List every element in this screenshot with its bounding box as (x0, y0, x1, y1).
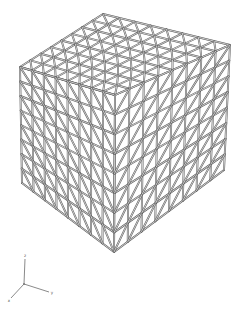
strut-diagonal (131, 59, 132, 69)
strut-diagonal (105, 72, 106, 82)
axis-x-line (11, 284, 24, 298)
axis-y-label: y (51, 290, 54, 295)
strut-diagonal (158, 66, 159, 76)
strut-diagonal (158, 56, 159, 66)
strut-diagonal (210, 154, 225, 180)
axis-y-line (24, 284, 49, 292)
axis-x-label: x (8, 298, 11, 303)
axis-origin-dot (23, 283, 25, 285)
strut-diagonal (79, 75, 80, 85)
coordinate-axes-triad: zyx (8, 253, 54, 302)
strut-diagonal (105, 62, 106, 72)
axis-z-label: z (24, 253, 26, 258)
cube-face-top (20, 14, 230, 95)
cube-face-left (20, 67, 115, 252)
strut-diagonal (131, 69, 132, 79)
lattice-cube (20, 14, 230, 252)
lattice-cube-figure: zyx (0, 0, 247, 315)
strut-diagonal (186, 54, 187, 64)
strut-diagonal (55, 67, 56, 77)
strut-diagonal (79, 65, 80, 75)
axis-z-line (24, 259, 25, 284)
